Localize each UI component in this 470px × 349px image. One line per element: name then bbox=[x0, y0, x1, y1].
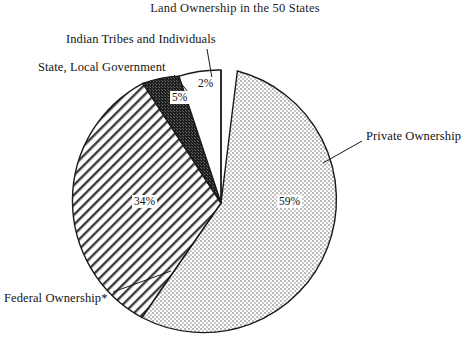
leader-line-private bbox=[323, 141, 362, 163]
slice-value-indian-tribes: 2% bbox=[196, 77, 215, 90]
slice-label-indian-tribes: Indian Tribes and Individuals bbox=[66, 32, 216, 47]
slice-value-state-local: 5% bbox=[170, 91, 189, 104]
slice-value-private: 59% bbox=[277, 195, 302, 208]
slice-label-private: Private Ownership bbox=[366, 129, 461, 144]
slice-label-state-local: State, Local Government bbox=[38, 60, 166, 75]
slice-value-federal: 34% bbox=[132, 195, 157, 208]
slice-label-federal: Federal Ownership* bbox=[4, 291, 108, 306]
pie-chart-figure: Land Ownership in the 50 States bbox=[0, 0, 470, 349]
